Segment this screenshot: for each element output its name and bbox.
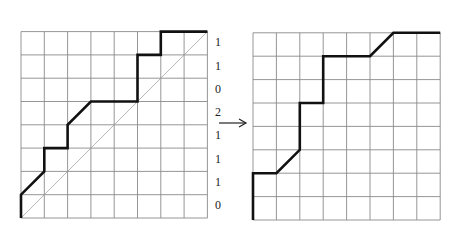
right-grid-panel	[253, 33, 440, 220]
left-grid-panel	[21, 32, 207, 218]
row-label: 1	[212, 152, 224, 167]
row-label: 0	[212, 82, 224, 97]
row-label: 1	[212, 35, 224, 50]
row-label: 1	[212, 59, 224, 74]
diagram-canvas	[0, 0, 458, 236]
row-label: 1	[212, 128, 224, 143]
row-label: 0	[212, 198, 224, 213]
row-label: 2	[212, 105, 224, 120]
row-label: 1	[212, 175, 224, 190]
